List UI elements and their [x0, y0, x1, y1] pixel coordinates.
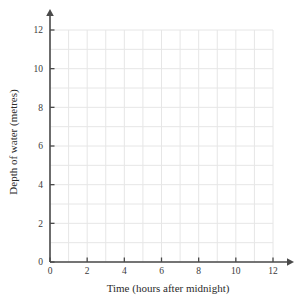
- chart-container: 024681012 024681012 Time (hours after mi…: [0, 0, 307, 303]
- y-tick-label: 2: [38, 219, 43, 229]
- x-tick-label: 6: [159, 266, 164, 276]
- x-axis-title: Time (hours after midnight): [107, 282, 230, 295]
- empty-grid-plot: 024681012 024681012 Time (hours after mi…: [0, 0, 307, 303]
- x-tick-label: 8: [196, 266, 201, 276]
- y-tick-label: 10: [34, 64, 44, 74]
- x-tick-label: 0: [48, 266, 53, 276]
- x-tick-label: 12: [268, 266, 278, 276]
- x-tick-label: 10: [231, 266, 241, 276]
- y-tick-label: 6: [38, 141, 43, 151]
- y-tick-label: 4: [38, 180, 43, 190]
- y-axis-title: Depth of water (metres): [7, 89, 20, 195]
- y-tick-label: 12: [34, 25, 44, 35]
- x-tick-label: 2: [85, 266, 90, 276]
- y-tick-label: 0: [38, 257, 43, 267]
- y-tick-label: 8: [38, 103, 43, 113]
- x-tick-label: 4: [122, 266, 127, 276]
- chart-background: [0, 0, 307, 303]
